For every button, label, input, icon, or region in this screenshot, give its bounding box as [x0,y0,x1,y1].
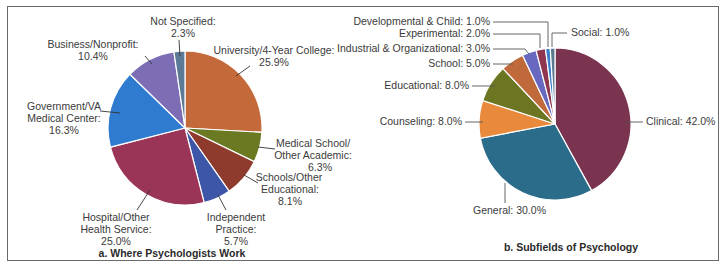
svg-text:Schools/Other: Schools/Other [256,171,323,183]
svg-text:Medical Center:: Medical Center: [27,112,101,124]
label-business-value: 10.4% [78,50,108,62]
label-schools-value: 8.1% [278,195,302,207]
label-not-specified-value: 2.3% [171,27,195,39]
svg-text:Developmental & Child: 1.0%: Developmental & Child: 1.0% [353,15,490,27]
svg-text:Clinical: 42.0%: Clinical: 42.0% [646,115,715,127]
label-educational: Educational: 8.0% [384,79,469,91]
label-experimental: Experimental: 2.0% [399,27,490,39]
pie-slice-university-4-year-college [185,51,262,132]
label-university-line1: University/4-Year College: [213,44,334,56]
svg-text:25.9%: 25.9% [259,56,289,68]
svg-text:Medical School/: Medical School/ [276,137,350,149]
label-government-line2: Medical Center: [27,112,101,124]
svg-text:General: 30.0%: General: 30.0% [473,204,546,216]
svg-text:Practice:: Practice: [216,223,257,235]
label-schools-line1: Schools/Other [256,171,323,183]
label-school: School: 5.0% [428,57,490,69]
svg-text:University/4-Year College:: University/4-Year College: [213,44,334,56]
label-clinical: Clinical: 42.0% [646,115,715,127]
label-hospital-line2: Health Service: [80,223,151,235]
svg-text:School: 5.0%: School: 5.0% [428,57,490,69]
label-industrial: Industrial & Organizational: 3.0% [337,42,490,54]
label-general: General: 30.0% [473,204,546,216]
label-developmental: Developmental & Child: 1.0% [353,15,490,27]
svg-text:Counseling: 8.0%: Counseling: 8.0% [380,115,462,127]
label-independent-line1: Independent [207,211,265,223]
svg-text:25.0%: 25.0% [101,235,131,247]
label-government-value: 16.3% [49,124,79,136]
label-government-line1: Government/VA [27,100,101,112]
chart-a-title: a. Where Psychologists Work [99,247,246,259]
svg-text:2.3%: 2.3% [171,27,195,39]
svg-text:Business/Nonprofit:: Business/Nonprofit: [47,38,138,50]
svg-text:a. Where Psychologists Work: a. Where Psychologists Work [99,247,246,259]
svg-text:Educational: 8.0%: Educational: 8.0% [384,79,469,91]
label-hospital-value: 25.0% [101,235,131,247]
svg-text:16.3%: 16.3% [49,124,79,136]
label-independent-line2: Practice: [216,223,257,235]
label-business-line1: Business/Nonprofit: [47,38,138,50]
svg-text:Other Academic:: Other Academic: [274,149,352,161]
label-medical-line2: Other Academic: [274,149,352,161]
svg-text:Government/VA: Government/VA [27,100,101,112]
svg-text:Hospital/Other: Hospital/Other [82,211,150,223]
svg-text:Not Specified:: Not Specified: [150,15,215,27]
svg-text:Experimental: 2.0%: Experimental: 2.0% [399,27,490,39]
label-hospital-line1: Hospital/Other [82,211,150,223]
label-independent-value: 5.7% [224,235,248,247]
label-schools-line2: Educational: [261,183,319,195]
label-social: Social: 1.0% [571,26,629,38]
label-medical-line1: Medical School/ [276,137,350,149]
label-not-specified-line1: Not Specified: [150,15,215,27]
label-university-value: 25.9% [259,56,289,68]
svg-text:Educational:: Educational: [261,183,319,195]
svg-text:b. Subfields of Psychology: b. Subfields of Psychology [504,241,638,253]
svg-text:10.4%: 10.4% [78,50,108,62]
label-counseling: Counseling: 8.0% [380,115,462,127]
pie-chart-subfields-of-psychology [479,48,631,200]
svg-text:Social: 1.0%: Social: 1.0% [571,26,629,38]
svg-text:8.1%: 8.1% [278,195,302,207]
svg-text:5.7%: 5.7% [224,235,248,247]
figure-canvas: Not Specified: 2.3% Business/Nonprofit: … [0,0,724,268]
svg-text:Health Service:: Health Service: [80,223,151,235]
chart-b-title: b. Subfields of Psychology [504,241,638,253]
svg-text:Industrial & Organizational: 3: Industrial & Organizational: 3.0% [337,42,490,54]
svg-text:Independent: Independent [207,211,265,223]
